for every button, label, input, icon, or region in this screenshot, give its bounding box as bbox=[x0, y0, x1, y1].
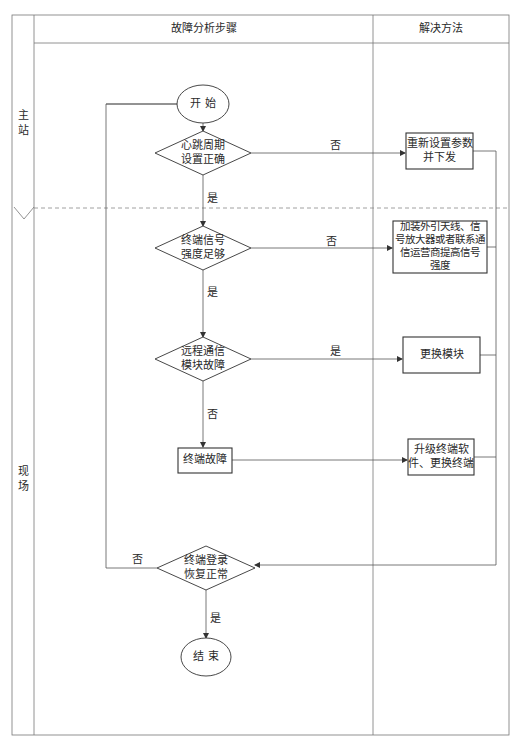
boost-signal-label: 加装外引天线、信 号放大器或者联系通 信运营商提高信号 强度 bbox=[393, 220, 487, 272]
swimlane-grid bbox=[12, 15, 509, 735]
edge-heartbeat-yes: 是 bbox=[205, 192, 219, 206]
terminal-fault-label: 终端故障 bbox=[178, 453, 232, 467]
replace-module-label: 更换模块 bbox=[403, 348, 480, 362]
edge-signal-yes: 是 bbox=[205, 286, 219, 300]
module-label: 远程通信 模块故障 bbox=[163, 345, 243, 373]
edge-module-yes: 是 bbox=[328, 345, 342, 359]
header-solutions: 解决方法 bbox=[373, 22, 509, 36]
edge-module-no: 否 bbox=[205, 408, 219, 422]
lane-label-master-station: 主 站 bbox=[16, 108, 30, 138]
heartbeat-label: 心跳周期 设置正确 bbox=[163, 139, 243, 167]
lane-separator-chevron bbox=[14, 207, 34, 219]
lane-label-field: 现 场 bbox=[16, 464, 30, 494]
start-label: 开 始 bbox=[177, 97, 229, 111]
edge-signal-no: 否 bbox=[324, 235, 338, 249]
signal-label: 终端信号 强度足够 bbox=[163, 234, 243, 262]
edge-login-yes: 是 bbox=[208, 612, 222, 626]
edge-heartbeat-no: 否 bbox=[328, 139, 342, 153]
end-label: 结 束 bbox=[181, 650, 231, 664]
login-label: 终端登录 恢复正常 bbox=[166, 554, 246, 582]
flowchart-canvas bbox=[0, 0, 530, 743]
edge-login-no: 否 bbox=[130, 553, 144, 567]
upgrade-terminal-label: 升级终端软 件、更换终端 bbox=[408, 443, 474, 471]
reset-params-label: 重新设置参数 并下发 bbox=[406, 137, 473, 165]
header-steps: 故障分析步骤 bbox=[34, 22, 373, 36]
